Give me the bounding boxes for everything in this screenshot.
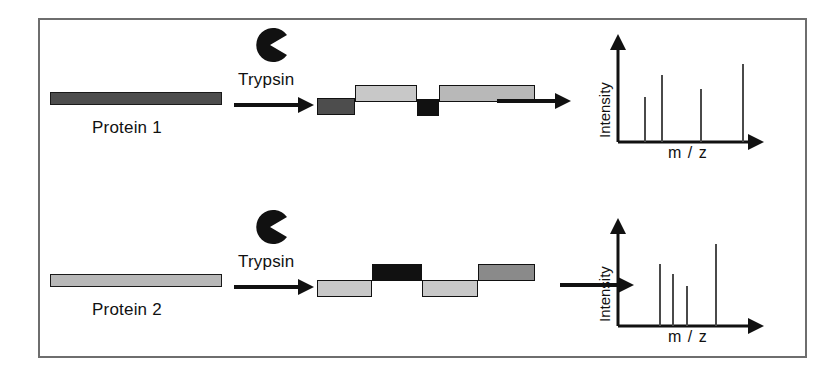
protein-bar-2	[50, 274, 222, 287]
analysis-arrow-1	[497, 91, 573, 111]
spectrum-ylabel-2: Intensity	[596, 266, 613, 322]
protein-label-1: Protein 1	[92, 118, 162, 138]
peptide-fragment	[372, 264, 422, 281]
trypsin-label-2: Trypsin	[238, 252, 295, 272]
trypsin-pacman-icon	[253, 28, 287, 62]
peptide-fragment	[417, 99, 439, 116]
mass-spectrum-1: Intensity m / z	[592, 30, 772, 160]
peptide-fragment	[317, 280, 372, 297]
peptide-fragment	[355, 85, 417, 102]
peptide-fragment	[317, 98, 355, 115]
protein-label-2: Protein 2	[92, 300, 162, 320]
mass-spectrum-2: Intensity m / z	[592, 214, 772, 344]
figure-canvas: Protein 1 Trypsin	[0, 0, 840, 380]
trypsin-arrow-2	[234, 277, 316, 297]
spectrum-xlabel-1: m / z	[668, 144, 708, 162]
spectrum-ylabel-1: Intensity	[596, 82, 613, 138]
peptide-fragment	[422, 280, 478, 297]
protein-bar-1	[50, 92, 222, 105]
peptide-fragment	[478, 264, 535, 281]
trypsin-arrow-1	[234, 95, 316, 115]
trypsin-label-1: Trypsin	[238, 70, 295, 90]
trypsin-pacman-icon	[253, 210, 287, 244]
spectrum-xlabel-2: m / z	[668, 328, 708, 346]
